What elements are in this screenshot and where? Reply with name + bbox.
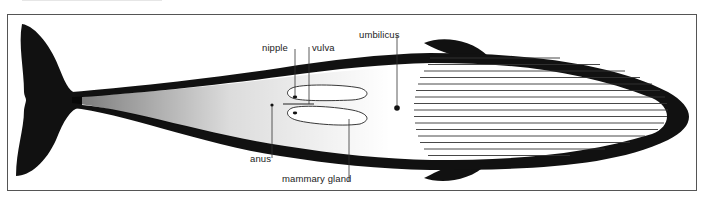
- label-nipple: nipple: [262, 43, 288, 53]
- nipple-lower: [293, 112, 297, 115]
- whale-diagram: [0, 0, 708, 202]
- label-mammary-gland: mammary gland: [282, 174, 351, 184]
- nipple-upper: [293, 96, 297, 99]
- label-umbilicus: umbilicus: [359, 30, 400, 40]
- label-anus: anus: [250, 154, 271, 164]
- mammary-gland-upper: [287, 85, 366, 101]
- label-vulva: vulva: [312, 43, 335, 53]
- tail-flukes: [16, 24, 80, 176]
- umbilicus-dot: [394, 105, 400, 111]
